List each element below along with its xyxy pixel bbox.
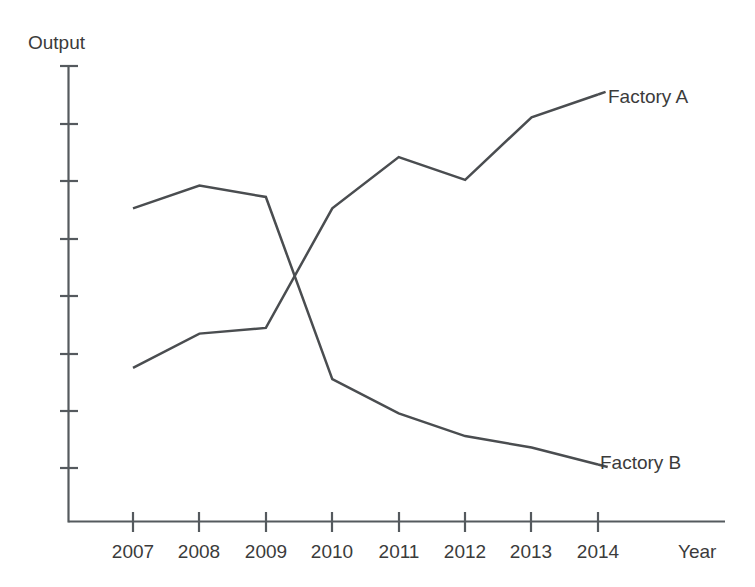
series-label-factory-a: Factory A <box>608 86 689 107</box>
series-leader-lines <box>598 92 608 467</box>
series-line-factory-b <box>133 186 598 465</box>
x-tick-label-2008: 2008 <box>178 541 220 562</box>
x-tick-label-2009: 2009 <box>245 541 287 562</box>
series-line-factory-a <box>133 94 598 367</box>
x-tick-label-2012: 2012 <box>444 541 486 562</box>
x-tick-label-2011: 2011 <box>379 541 420 562</box>
series-label-factory-b: Factory B <box>600 452 681 473</box>
x-axis-title: Year <box>678 541 717 562</box>
x-axis-tick-labels: 2007 2008 2009 2010 2011 2012 2013 2014 <box>112 541 620 562</box>
line-chart-figure: Output 20 <box>0 0 755 587</box>
y-axis-title: Output <box>28 32 86 53</box>
chart-canvas: Output 20 <box>0 0 755 587</box>
x-tick-label-2013: 2013 <box>510 541 552 562</box>
x-tick-label-2014: 2014 <box>577 541 620 562</box>
series-group <box>133 94 598 464</box>
x-tick-label-2010: 2010 <box>311 541 353 562</box>
series-leader-factory-a <box>598 92 606 95</box>
x-tick-label-2007: 2007 <box>112 541 154 562</box>
